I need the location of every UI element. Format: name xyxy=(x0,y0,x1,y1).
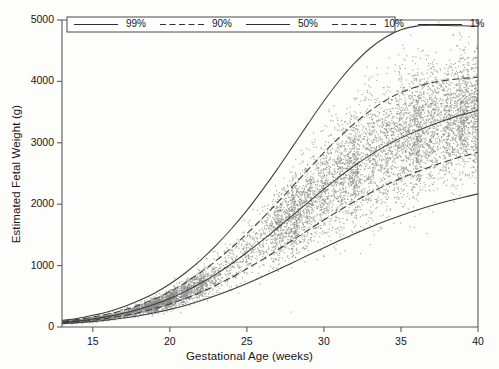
x-axis-title: Gestational Age (weeks) xyxy=(0,350,499,362)
x-tick-label: 35 xyxy=(381,335,421,347)
x-tick-label: 25 xyxy=(227,335,267,347)
y-tick-label: 5000 xyxy=(14,13,54,25)
legend-label-1pct: 1% xyxy=(470,18,484,29)
axes-layer xyxy=(57,20,478,332)
y-tick-label: 2000 xyxy=(14,197,54,209)
y-tick-label: 0 xyxy=(14,320,54,332)
percentile-curves-layer xyxy=(62,25,478,323)
y-tick-label: 1000 xyxy=(14,259,54,271)
plot-canvas xyxy=(0,0,499,369)
percentile-curve-10pct xyxy=(62,152,478,323)
fetal-weight-chart: Gestational Age (weeks) Estimated Fetal … xyxy=(0,0,499,369)
legend-label-50pct: 50% xyxy=(298,18,318,29)
x-tick-marks xyxy=(93,327,478,332)
y-tick-label: 3000 xyxy=(14,136,54,148)
x-tick-label: 20 xyxy=(150,335,190,347)
y-tick-marks xyxy=(57,20,62,327)
legend-label-99pct: 99% xyxy=(126,18,146,29)
x-tick-label: 30 xyxy=(304,335,344,347)
scatter-points-layer xyxy=(63,22,479,325)
legend-label-90pct: 90% xyxy=(212,18,232,29)
legend-label-10pct: 10% xyxy=(384,18,404,29)
percentile-curve-1pct xyxy=(62,194,478,324)
x-tick-label: 40 xyxy=(458,335,498,347)
y-tick-label: 4000 xyxy=(14,74,54,86)
x-tick-label: 15 xyxy=(73,335,113,347)
